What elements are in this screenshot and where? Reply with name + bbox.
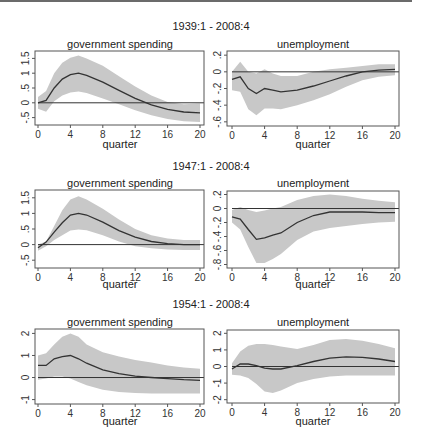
- y-tick-label: 0: [212, 363, 223, 369]
- y-tick-label: -.5: [20, 254, 31, 266]
- y-tick-label: -.8: [212, 258, 223, 270]
- y-tick-label: -.5: [20, 111, 31, 123]
- y-tick-label: 1: [20, 210, 31, 216]
- y-tick-label: .5: [20, 224, 31, 233]
- y-tick-label: 2: [212, 330, 223, 336]
- y-tick-label: -2: [212, 395, 223, 404]
- xlabel-unemp-1939: quarter: [227, 138, 399, 150]
- y-tick-label: .2: [212, 190, 223, 199]
- y-tick-label: 2: [20, 330, 31, 336]
- y-tick-label: -1: [212, 378, 223, 387]
- xlabel-gov-1947: quarter: [35, 278, 205, 290]
- y-tick-label: -.2: [212, 216, 223, 228]
- xlabel-gov-1954: quarter: [35, 415, 205, 427]
- y-tick-label: 1.5: [20, 190, 31, 204]
- y-tick-label: 1.5: [20, 51, 31, 65]
- confidence-band: [38, 333, 200, 393]
- y-tick-label: 1: [212, 347, 223, 353]
- y-tick-label: 0: [212, 69, 223, 75]
- y-tick-label: -.6: [212, 244, 223, 256]
- xlabel-unemp-1954: quarter: [227, 415, 399, 427]
- y-tick-label: 0: [20, 100, 31, 106]
- y-tick-label: -.6: [212, 116, 223, 128]
- y-tick-label: .5: [20, 83, 31, 92]
- y-tick-label: -1: [20, 395, 31, 404]
- confidence-band: [232, 195, 395, 264]
- confidence-band: [232, 62, 395, 115]
- y-tick-label: 1: [20, 352, 31, 358]
- y-tick-label: 0: [20, 374, 31, 380]
- y-tick-label: 1: [20, 70, 31, 76]
- y-tick-label: -.2: [212, 82, 223, 94]
- irf-chart-grid: 1.51.50-.5048121620.20-.2-.4-.6048121620…: [0, 0, 422, 441]
- y-tick-label: -.4: [212, 99, 223, 111]
- y-tick-label: .2: [212, 51, 223, 60]
- xlabel-gov-1939: quarter: [35, 138, 205, 150]
- y-tick-label: 0: [20, 241, 31, 247]
- y-tick-label: 0: [212, 205, 223, 211]
- y-tick-label: -.4: [212, 230, 223, 242]
- confidence-band: [38, 55, 200, 122]
- xlabel-unemp-1947: quarter: [227, 278, 399, 290]
